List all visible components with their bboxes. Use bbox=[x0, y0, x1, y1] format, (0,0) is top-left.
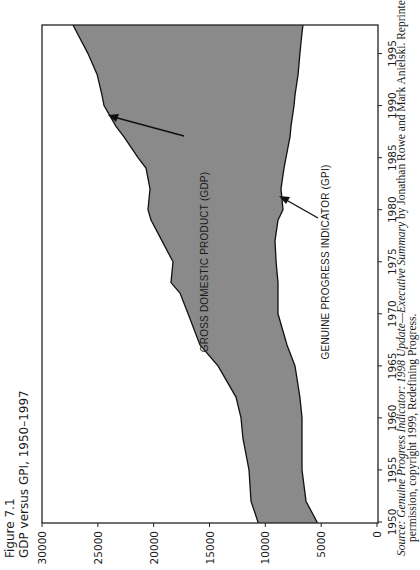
value-tick-label: 5000 bbox=[315, 531, 327, 558]
value-tick-label: 25000 bbox=[92, 531, 104, 564]
source-caption: Source: Genuine Progress Indicator: 1998… bbox=[395, 0, 419, 556]
caption-source-authors: by Jonathan Rowe and Mark Anielski. Repr… bbox=[395, 0, 408, 222]
gpi-annotation-label: GENUINE PROGRESS INDICATOR (GPI) bbox=[320, 165, 331, 360]
figure-number: Figure 7.1 bbox=[3, 498, 17, 558]
gdp-vs-gpi-chart: Figure 7.1 GDP versus GPI, 1950–1997 050… bbox=[0, 0, 420, 570]
gpi-annotation: GENUINE PROGRESS INDICATOR (GPI) bbox=[320, 165, 331, 360]
figure-7-1: Figure 7.1 GDP versus GPI, 1950–1997 050… bbox=[0, 0, 420, 570]
figure-heading: Figure 7.1 GDP versus GPI, 1950–1997 bbox=[3, 390, 31, 558]
gdp-annotation: GROSS DOMESTIC PRODUCT (GDP) bbox=[199, 172, 210, 352]
gdp-annotation-label: GROSS DOMESTIC PRODUCT (GDP) bbox=[199, 172, 210, 352]
caption-permission: permission, copyright 1999, Redefining P… bbox=[406, 313, 419, 542]
value-tick-label: 0 bbox=[371, 531, 383, 538]
value-tick-label: 15000 bbox=[204, 531, 216, 564]
value-tick-label: 10000 bbox=[259, 531, 271, 564]
value-axis: 050001000015000200002500030000 bbox=[36, 523, 383, 564]
value-tick-label: 30000 bbox=[36, 531, 48, 564]
gdp-gpi-gap-area bbox=[73, 25, 317, 523]
value-tick-label: 20000 bbox=[148, 531, 160, 564]
figure-title: GDP versus GPI, 1950–1997 bbox=[17, 390, 31, 558]
